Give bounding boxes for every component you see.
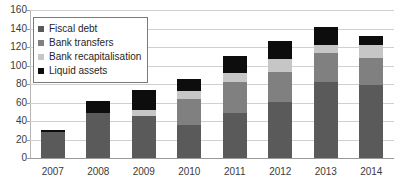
bar-segment: [314, 45, 338, 53]
x-tick-label-2012: 2012: [258, 160, 304, 184]
x-tick-label-2010: 2010: [167, 160, 213, 184]
bar-segment: [359, 58, 383, 85]
y-tick-label: 20: [1, 135, 27, 145]
bar-2009[interactable]: [132, 90, 156, 158]
bar-2010[interactable]: [177, 79, 201, 158]
bar-segment: [314, 53, 338, 82]
bar-segment: [132, 90, 156, 109]
bar-segment: [359, 85, 383, 158]
bar-segment: [177, 99, 201, 125]
bar-segment: [177, 125, 201, 158]
bar-segment: [359, 45, 383, 58]
bar-segment: [223, 82, 247, 113]
y-axis: 160140120100806040200: [0, 10, 27, 158]
x-tick-label-2008: 2008: [76, 160, 122, 184]
bar-2014[interactable]: [359, 36, 383, 158]
x-tick-label-2013: 2013: [303, 160, 349, 184]
bar-segment: [223, 56, 247, 73]
y-tick-label: 40: [1, 116, 27, 126]
legend-item[interactable]: Bank recapitalisation: [38, 50, 141, 64]
bar-segment: [86, 101, 110, 113]
bar-segment: [132, 116, 156, 158]
bar-segment: [223, 113, 247, 158]
bar-segment: [314, 82, 338, 158]
legend-item[interactable]: Liquid assets: [38, 64, 141, 78]
bar-2007[interactable]: [41, 130, 65, 158]
chart-legend: Fiscal debtBank transfersBank recapitali…: [33, 17, 148, 83]
legend-swatch-icon: [38, 26, 44, 32]
stacked-bar-chart: 160140120100806040200 200720082009201020…: [0, 0, 401, 188]
y-tick-label: 0: [1, 153, 27, 163]
gridline: [30, 158, 394, 159]
legend-label: Liquid assets: [49, 64, 107, 78]
y-tick-label: 120: [1, 42, 27, 52]
legend-swatch-icon: [38, 68, 44, 74]
x-tick-label-2007: 2007: [30, 160, 76, 184]
x-tick-label-2014: 2014: [349, 160, 395, 184]
bar-segment: [41, 132, 65, 158]
bar-segment: [86, 113, 110, 158]
y-tick-label: 140: [1, 24, 27, 34]
y-tick-label: 80: [1, 79, 27, 89]
legend-swatch-icon: [38, 54, 44, 60]
bar-segment: [177, 91, 201, 98]
bar-2012[interactable]: [268, 41, 292, 158]
bar-2008[interactable]: [86, 101, 110, 158]
bar-slot-2013: [303, 10, 349, 158]
legend-swatch-icon: [38, 40, 44, 46]
bar-segment: [223, 73, 247, 82]
bar-segment: [268, 59, 292, 72]
bar-slot-2014: [349, 10, 395, 158]
x-tick-label-2009: 2009: [121, 160, 167, 184]
bar-segment: [314, 27, 338, 46]
legend-label: Bank recapitalisation: [49, 50, 141, 64]
bar-segment: [177, 79, 201, 91]
x-tick-label-2011: 2011: [212, 160, 258, 184]
x-axis: 20072008200920102011201220132014: [30, 160, 394, 184]
legend-item[interactable]: Fiscal debt: [38, 22, 141, 36]
bar-2011[interactable]: [223, 56, 247, 158]
bar-segment: [268, 41, 292, 59]
bar-2013[interactable]: [314, 27, 338, 158]
legend-label: Fiscal debt: [49, 22, 97, 36]
bar-segment: [268, 102, 292, 158]
bar-segment: [268, 72, 292, 102]
y-tick-label: 100: [1, 61, 27, 71]
legend-label: Bank transfers: [49, 36, 113, 50]
bar-segment: [359, 36, 383, 45]
bar-slot-2011: [212, 10, 258, 158]
legend-item[interactable]: Bank transfers: [38, 36, 141, 50]
bar-slot-2010: [167, 10, 213, 158]
y-tick-label: 60: [1, 98, 27, 108]
y-tick-label: 160: [1, 5, 27, 15]
bar-slot-2012: [258, 10, 304, 158]
